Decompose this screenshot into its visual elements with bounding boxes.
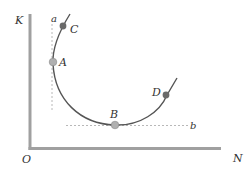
point-c (60, 23, 67, 30)
y-axis-label: K (14, 14, 24, 27)
point-b (111, 121, 119, 129)
point-c-label: C (70, 23, 79, 36)
curve-start-label: a (51, 13, 57, 24)
point-a (49, 58, 57, 66)
x-axis-label: N (232, 152, 243, 165)
point-d-label: D (151, 86, 161, 99)
point-b-label: B (109, 108, 118, 121)
curve-end-label: b (190, 120, 196, 131)
origin-label: O (22, 153, 31, 166)
point-d (163, 92, 170, 99)
isoquant-diagram: K N O a b C A B D (0, 0, 252, 172)
point-a-label: A (58, 56, 67, 69)
